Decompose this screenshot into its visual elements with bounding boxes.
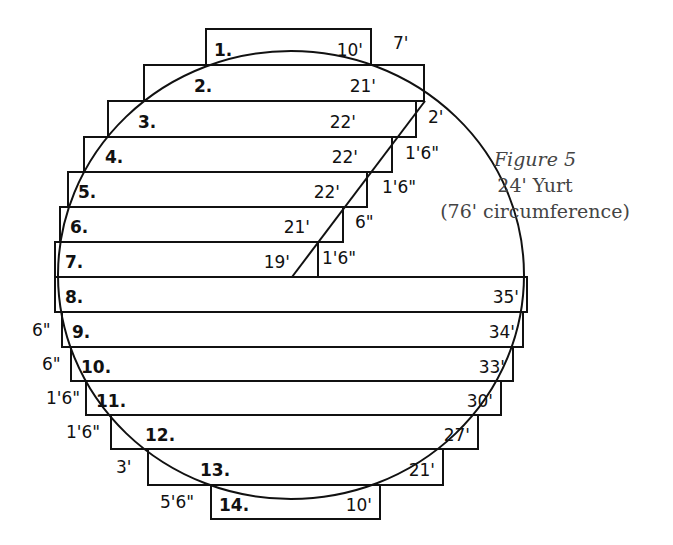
strip-length: 35' xyxy=(493,287,519,307)
strip-number: 13. xyxy=(200,460,230,480)
strip-length: 10' xyxy=(346,495,372,515)
strip-10 xyxy=(71,347,513,381)
strip-number: 5. xyxy=(78,182,96,202)
figure-caption: Figure 5 24' Yurt (76' circumference) xyxy=(440,148,630,222)
strip-number: 11. xyxy=(96,391,126,411)
strip-length: 27' xyxy=(444,425,470,445)
strip-number: 9. xyxy=(72,322,90,342)
caption-title: Figure 5 xyxy=(493,148,576,170)
strip-11 xyxy=(86,381,501,415)
strip-number: 2. xyxy=(194,76,212,96)
strip-13 xyxy=(148,449,443,485)
yurt-layout-diagram: 1.10'2.21'3.22'4.22'5.22'6.21'7.19'8.35'… xyxy=(0,0,673,545)
strip-length: 21' xyxy=(284,217,310,237)
offset-label: 6" xyxy=(355,212,374,232)
strip-length: 19' xyxy=(264,252,290,272)
strip-number: 1. xyxy=(214,40,232,60)
strip-length: 30' xyxy=(467,391,493,411)
strip-length: 34' xyxy=(489,322,515,342)
strip-length: 22' xyxy=(330,112,356,132)
offset-label: 2' xyxy=(428,107,444,127)
strip-length: 22' xyxy=(332,147,358,167)
strip-length: 21' xyxy=(409,460,435,480)
strip-number: 3. xyxy=(138,112,156,132)
strip-8 xyxy=(55,277,527,312)
offset-label: 5'6" xyxy=(160,492,194,512)
offset-label: 7' xyxy=(393,33,409,53)
strip-number: 7. xyxy=(65,252,83,272)
offset-labels: 7'2'1'6"1'6"6"1'6"6"6"1'6"1'6"3'5'6" xyxy=(32,33,444,512)
strip-2 xyxy=(144,65,424,101)
strip-length: 21' xyxy=(350,76,376,96)
offset-label: 1'6" xyxy=(322,248,356,268)
offset-label: 6" xyxy=(32,320,51,340)
offset-label: 1'6" xyxy=(46,388,80,408)
offset-label: 1'6" xyxy=(405,143,439,163)
caption-line-1: 24' Yurt xyxy=(497,174,573,196)
felt-strips xyxy=(55,29,527,519)
strip-number: 8. xyxy=(65,287,83,307)
strip-number: 6. xyxy=(70,217,88,237)
offset-label: 1'6" xyxy=(66,422,100,442)
strip-9 xyxy=(62,312,523,347)
strip-number: 12. xyxy=(145,425,175,445)
strip-length: 22' xyxy=(314,182,340,202)
strip-number: 4. xyxy=(105,147,123,167)
strip-length: 33' xyxy=(479,357,505,377)
offset-label: 1'6" xyxy=(382,177,416,197)
caption-line-2: (76' circumference) xyxy=(440,200,630,222)
strip-length: 10' xyxy=(337,40,363,60)
offset-label: 3' xyxy=(116,457,132,477)
strip-number: 14. xyxy=(219,495,249,515)
offset-label: 6" xyxy=(42,354,61,374)
strip-number: 10. xyxy=(81,357,111,377)
